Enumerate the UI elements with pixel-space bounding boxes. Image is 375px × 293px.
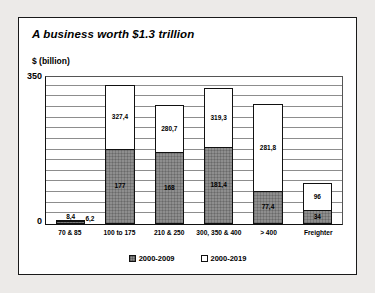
x-axis-labels: 70 & 85100 to 175210 & 250300, 350 & 400… [45,229,343,237]
bar-segment-2000-2009[interactable]: 177 [105,149,135,224]
x-axis-label-3: 300, 350 & 400 [194,229,244,237]
legend-swatch-icon [129,255,136,262]
bar-value-label: 177 [115,183,126,190]
x-axis-label-2: 210 & 250 [144,229,194,237]
page-title: A business worth $1.3 trillion [32,28,194,40]
bar-value-label: 96 [314,194,321,201]
chart-card: A business worth $1.3 trillion $ (billio… [18,17,357,275]
bar-segment-2000-2009[interactable]: 6,2 [56,221,86,224]
bar-segment-2000-2019[interactable]: 327,4 [105,85,135,149]
bar-segment-2000-2019[interactable]: 319,3 [204,88,234,147]
bar-value-label: 34 [314,214,321,221]
bar-value-label: 77,4 [262,204,275,211]
legend-label: 2000-2009 [139,254,175,263]
bar-value-label: 319,3 [211,115,227,122]
bar-segment-2000-2009[interactable]: 181,4 [204,147,234,224]
x-axis-label-5: Freighter [293,229,343,237]
bar-segment-2000-2009[interactable]: 77,4 [253,191,283,224]
bar-group[interactable]: 280,7168 [145,77,194,224]
bar-segment-2000-2009[interactable]: 168 [155,152,185,224]
stacked-bar[interactable]: 280,7168 [155,105,185,224]
bar-group[interactable]: 327,4177 [95,77,144,224]
bar-segment-2000-2019[interactable]: 281,8 [253,104,283,191]
bar-group[interactable]: 281,877,4 [243,77,292,224]
x-axis-label-4: > 400 [244,229,294,237]
x-axis-label-1: 100 to 175 [95,229,145,237]
bar-value-label: 181,4 [211,182,227,189]
legend-swatch-icon [201,255,208,262]
bar-value-label: 327,4 [112,114,128,121]
bar-segment-2000-2019[interactable]: 280,7 [155,105,185,153]
legend-label: 2000-2019 [211,254,247,263]
bar-value-label: 6,2 [85,215,94,222]
chart-legend: 2000-20092000-2019 [19,254,356,263]
bar-series-container: 8,46,2327,4177280,7168319,3181,4281,877,… [46,77,342,224]
bar-segment-2000-2009[interactable]: 34 [303,210,333,224]
bar-group[interactable]: 8,46,2 [46,77,95,224]
y-axis-tick-max: 350 [27,71,42,81]
bar-value-label: 280,7 [161,126,177,133]
bar-group[interactable]: 319,3181,4 [194,77,243,224]
legend-item-2000-2009[interactable]: 2000-2009 [129,254,175,263]
stacked-bar[interactable]: 281,877,4 [253,104,283,224]
bar-value-label: 8,4 [66,213,75,220]
plot-area: 8,46,2327,4177280,7168319,3181,4281,877,… [45,76,343,225]
y-axis-tick-min: 0 [37,216,42,226]
bar-segment-2000-2019[interactable]: 96 [303,183,333,209]
stacked-bar[interactable]: 9634 [303,183,333,224]
stacked-bar[interactable]: 327,4177 [105,85,135,224]
x-axis-label-0: 70 & 85 [45,229,95,237]
stacked-bar[interactable]: 8,46,2 [56,220,86,224]
bar-group[interactable]: 9634 [293,77,342,224]
legend-item-2000-2019[interactable]: 2000-2019 [201,254,247,263]
y-axis-label: $ (billion) [32,56,70,66]
bar-value-label: 168 [164,185,175,192]
stacked-bar[interactable]: 319,3181,4 [204,88,234,224]
bar-value-label: 281,8 [260,145,276,152]
